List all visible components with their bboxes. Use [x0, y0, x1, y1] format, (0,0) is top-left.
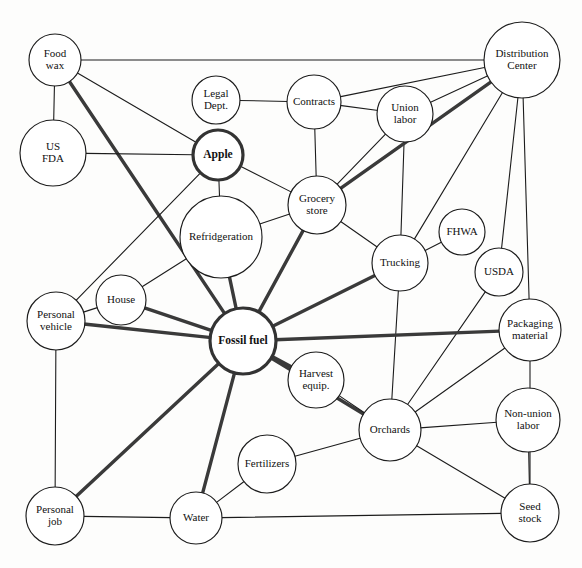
- node-usda[interactable]: USDA: [475, 248, 523, 296]
- node-apple[interactable]: Apple: [193, 130, 243, 180]
- edge-fossil-fuel-to-water: [202, 372, 234, 494]
- edge-personal-vehicle-to-personal-job: [55, 349, 56, 488]
- node-label-union-labor: Unionlabor: [391, 101, 419, 125]
- node-label-orchards: Orchards: [370, 423, 410, 435]
- node-label-fhwa: FHWA: [446, 225, 477, 237]
- node-label-line: Food: [44, 47, 67, 59]
- node-label-line: USDA: [484, 265, 514, 277]
- edge-contracts-to-union-labor: [340, 105, 378, 110]
- node-label-line: labor: [517, 418, 540, 430]
- edge-union-labor-to-trucking: [401, 141, 404, 236]
- node-label-fertilizers: Fertilizers: [245, 457, 290, 469]
- node-label-line: store: [306, 203, 328, 215]
- node-label-house: House: [107, 293, 135, 305]
- node-refridgeration[interactable]: Refridgeration: [180, 196, 262, 278]
- node-label-line: Personal: [37, 308, 75, 320]
- node-label-seed-stock: Seedstock: [518, 500, 542, 524]
- node-trucking[interactable]: Trucking: [372, 235, 428, 291]
- node-us-fda[interactable]: USFDA: [20, 120, 86, 186]
- node-orchards[interactable]: Orchards: [359, 399, 421, 461]
- node-distribution[interactable]: DistributionCenter: [484, 22, 560, 98]
- node-legal-dept[interactable]: LegalDept.: [192, 76, 240, 124]
- node-personal-job[interactable]: Personaljob: [26, 487, 84, 545]
- node-label-line: Water: [183, 511, 209, 523]
- edge-union-labor-to-grocery-store: [336, 133, 386, 184]
- edge-house-to-personal-vehicle: [83, 307, 99, 312]
- edge-apple-to-grocery-store: [239, 166, 292, 193]
- edge-legal-dept-to-contracts: [239, 100, 288, 101]
- edge-orchards-to-non-union-labor: [420, 422, 497, 428]
- edge-contracts-to-grocery-store: [315, 128, 316, 177]
- node-house[interactable]: House: [96, 275, 146, 325]
- edge-non-union-labor-to-seed-stock: [529, 451, 530, 485]
- node-food-wax[interactable]: Foodwax: [29, 34, 81, 86]
- node-layer: FoodwaxUSFDALegalDept.ContractsUnionlabo…: [20, 22, 561, 545]
- node-label-water: Water: [183, 511, 209, 523]
- node-fertilizers[interactable]: Fertilizers: [238, 435, 296, 493]
- node-label-line: job: [47, 514, 63, 526]
- node-label-line: FDA: [42, 151, 64, 163]
- node-label-line: House: [107, 293, 135, 305]
- node-label-line: Personal: [36, 503, 74, 515]
- node-fhwa[interactable]: FHWA: [439, 209, 485, 255]
- edge-trucking-to-fossil-fuel: [272, 275, 376, 327]
- node-label-line: Orchards: [370, 423, 410, 435]
- node-non-union-labor[interactable]: Non-unionlabor: [496, 388, 560, 452]
- node-label-line: Refridgeration: [189, 230, 254, 242]
- edge-usda-to-orchards: [407, 291, 486, 405]
- node-label-line: Packaging: [507, 317, 553, 329]
- node-label-line: Non-union: [504, 407, 552, 419]
- node-label-line: Trucking: [380, 256, 420, 268]
- node-label-food-wax: Foodwax: [44, 47, 67, 71]
- edge-harvest-equip-to-orchards: [338, 395, 365, 413]
- node-fossil-fuel[interactable]: Fossil fuel: [210, 308, 276, 374]
- node-label-legal-dept: LegalDept.: [203, 87, 228, 111]
- edge-orchards-to-seed-stock: [416, 445, 506, 498]
- node-label-line: FHWA: [446, 225, 477, 237]
- caption-remnant: [0, 554, 582, 568]
- network-canvas: FoodwaxUSFDALegalDept.ContractsUnionlabo…: [0, 0, 582, 568]
- node-label-personal-vehicle: Personalvehicle: [37, 308, 75, 332]
- node-label-fossil-fuel: Fossil fuel: [218, 334, 268, 346]
- edge-us-fda-to-apple: [85, 153, 194, 154]
- node-contracts[interactable]: Contracts: [287, 75, 341, 129]
- node-label-line: stock: [518, 511, 542, 523]
- node-label-line: Grocery: [299, 192, 336, 204]
- node-grocery-store[interactable]: Grocerystore: [288, 176, 346, 234]
- edge-fertilizers-to-water: [216, 481, 245, 503]
- node-label-line: Seed: [519, 500, 541, 512]
- node-label-contracts: Contracts: [293, 95, 335, 107]
- edge-trucking-to-orchards: [392, 290, 399, 400]
- edge-refridgeration-to-house: [141, 258, 187, 287]
- edge-apple-to-refridgeration: [219, 179, 220, 197]
- node-label-line: Union: [391, 101, 419, 113]
- node-label-harvest-equip: Harvestequip.: [299, 367, 333, 391]
- node-seed-stock[interactable]: Seedstock: [501, 484, 559, 542]
- edge-distribution-to-packaging: [523, 97, 529, 300]
- node-label-line: Distribution: [495, 47, 549, 59]
- node-label-line: Contracts: [293, 95, 335, 107]
- edge-refridgeration-to-fossil-fuel: [229, 276, 236, 310]
- node-label-line: Apple: [203, 148, 232, 161]
- node-label-line: vehicle: [40, 319, 72, 331]
- node-union-labor[interactable]: Unionlabor: [377, 86, 433, 142]
- node-harvest-equip[interactable]: Harvestequip.: [288, 352, 344, 408]
- node-label-line: Harvest: [299, 367, 333, 379]
- edge-trucking-to-fhwa: [424, 242, 442, 251]
- node-water[interactable]: Water: [170, 492, 222, 544]
- node-label-trucking: Trucking: [380, 256, 420, 268]
- node-label-refridgeration: Refridgeration: [189, 230, 254, 242]
- node-label-line: wax: [46, 58, 65, 70]
- edge-personal-vehicle-to-fossil-fuel: [84, 324, 211, 338]
- node-label-apple: Apple: [203, 148, 232, 161]
- node-label-line: US: [46, 140, 60, 152]
- edge-packaging-to-orchards: [414, 347, 505, 412]
- node-label-usda: USDA: [484, 265, 514, 277]
- node-personal-vehicle[interactable]: Personalvehicle: [27, 292, 85, 350]
- node-label-line: Legal: [203, 87, 228, 99]
- edge-grocery-store-to-refridgeration: [259, 214, 290, 225]
- edge-food-wax-to-apple: [77, 73, 198, 143]
- edge-fossil-fuel-to-personal-job: [75, 363, 219, 497]
- edge-grocery-store-to-fossil-fuel: [258, 230, 303, 313]
- node-packaging[interactable]: Packagingmaterial: [499, 299, 561, 361]
